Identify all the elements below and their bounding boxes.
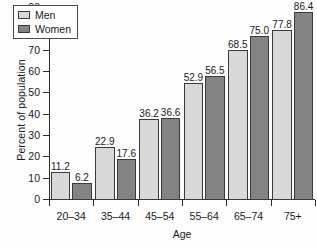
x-axis-tick-label: 20–34 — [57, 210, 86, 222]
x-axis-tick-label: 75+ — [284, 210, 302, 222]
x-axis-tick-label: 35–44 — [101, 210, 130, 222]
bar-women: 17.6 — [117, 159, 137, 200]
bar-value-label: 56.5 — [205, 65, 224, 76]
bar-women: 86.4 — [294, 12, 314, 200]
y-axis-tick: 70 — [43, 50, 49, 51]
y-axis-tick-label: 10 — [28, 172, 40, 184]
y-axis-tick-label: 30 — [28, 129, 40, 141]
legend-label-men: Men — [35, 9, 55, 21]
bar-women: 6.2 — [72, 183, 92, 200]
bar-value-label: 36.6 — [161, 107, 180, 118]
bar-chart: Percent of population 010203040506070809… — [0, 0, 317, 248]
legend-item-men: Men — [18, 9, 71, 21]
bar-value-label: 75.0 — [250, 25, 269, 36]
legend-swatch-men — [18, 11, 30, 19]
plot-area: 010203040506070809020–3411.26.235–4422.9… — [49, 8, 315, 200]
legend-item-women: Women — [18, 23, 71, 35]
bar-men: 77.8 — [272, 30, 292, 200]
x-axis-title: Age — [49, 228, 315, 240]
y-axis-tick-label: 70 — [28, 44, 40, 56]
y-axis-tick-label: 50 — [28, 86, 40, 98]
y-axis-tick: 40 — [43, 114, 49, 115]
legend-swatch-women — [18, 25, 30, 33]
x-axis-tick-label: 55–64 — [190, 210, 219, 222]
x-axis-tick — [226, 200, 227, 206]
bar-value-label: 77.8 — [272, 19, 291, 30]
x-axis-tick-label: 45–54 — [145, 210, 174, 222]
y-axis-tick-label: 20 — [28, 150, 40, 162]
bar-value-label: 68.5 — [228, 39, 247, 50]
bar-men: 22.9 — [95, 147, 115, 200]
bar-value-label: 86.4 — [294, 1, 313, 12]
x-axis-tick — [271, 200, 272, 206]
bar-value-label: 6.2 — [75, 172, 89, 183]
x-axis-tick — [315, 200, 316, 206]
y-axis-tick: 30 — [43, 135, 49, 136]
bar-men: 52.9 — [184, 83, 204, 200]
bar-women: 36.6 — [161, 118, 181, 200]
bar-value-label: 22.9 — [95, 136, 114, 147]
y-axis-tick-label: 0 — [34, 193, 40, 205]
bar-value-label: 11.2 — [51, 161, 70, 172]
y-axis-tick: 10 — [43, 178, 49, 179]
bar-value-label: 36.2 — [139, 108, 158, 119]
x-axis-tick-label: 65–74 — [234, 210, 263, 222]
bar-men: 11.2 — [51, 172, 71, 200]
bar-men: 68.5 — [228, 50, 248, 200]
legend-label-women: Women — [35, 23, 71, 35]
y-axis-tick-label: 60 — [28, 65, 40, 77]
y-axis-tick: 50 — [43, 92, 49, 93]
bar-women: 75.0 — [250, 36, 270, 200]
legend: Men Women — [13, 5, 78, 39]
x-axis-tick — [49, 200, 50, 206]
y-axis-tick: 60 — [43, 71, 49, 72]
bar-men: 36.2 — [139, 119, 159, 200]
x-axis-tick — [93, 200, 94, 206]
bar-women: 56.5 — [205, 76, 225, 200]
y-axis-tick-label: 40 — [28, 108, 40, 120]
x-axis-tick — [182, 200, 183, 206]
bar-value-label: 52.9 — [184, 72, 203, 83]
y-axis-tick: 20 — [43, 156, 49, 157]
bar-value-label: 17.6 — [117, 148, 136, 159]
x-axis-tick — [138, 200, 139, 206]
y-axis-title: Percent of population — [15, 35, 27, 185]
